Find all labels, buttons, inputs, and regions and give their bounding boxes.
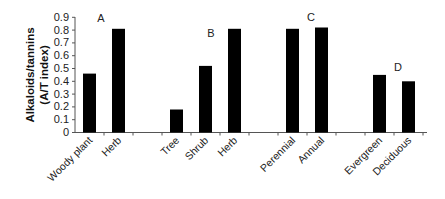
group-letter-a: A (97, 12, 105, 24)
bars (83, 28, 415, 133)
y-tick-label: 0.1 (54, 113, 69, 125)
bar-tree (170, 110, 183, 133)
x-tick-label-shrub: Shrub (182, 134, 210, 162)
group-letter-d: D (394, 61, 402, 73)
y-tick-label: 0.7 (54, 36, 69, 48)
bar-herb (228, 29, 241, 133)
y-axis-label: Alkaloids/tannins (A/T index) (24, 27, 50, 122)
y-axis-label-line-1: Alkaloids/tannins (24, 27, 36, 122)
bar-woody-plant (83, 74, 96, 133)
x-tick-label-perennial: Perennial (258, 134, 298, 174)
y-tick-label: 0.4 (54, 75, 69, 87)
bar-annual (315, 28, 328, 133)
y-tick-label: 0.6 (54, 49, 69, 61)
group-letters: A B C D (97, 11, 402, 73)
group-letter-b: B (207, 27, 214, 39)
bar-herb (112, 29, 125, 133)
y-axis-label-line-2: (A/T index) (38, 45, 50, 105)
bar-deciduous (402, 81, 415, 132)
bar-evergreen (373, 75, 386, 133)
group-letter-c: C (307, 11, 315, 23)
x-tick-label-herb: Herb (99, 134, 124, 159)
bar-perennial (286, 29, 299, 133)
y-tick-label: 0.9 (54, 11, 69, 23)
y-tick-label: 0.8 (54, 24, 69, 36)
y-tick-label: 0.5 (54, 62, 69, 74)
x-tick-label-tree: Tree (158, 134, 182, 158)
x-tick-label-herb-2: Herb (215, 134, 240, 159)
y-tick-label: 0.2 (54, 100, 69, 112)
y-tick-label: 0.3 (54, 88, 69, 100)
x-tick-label-annual: Annual (295, 134, 327, 166)
bar-shrub (199, 66, 212, 133)
bar-chart: Alkaloids/tannins (A/T index) 0 0.1 0.2 … (0, 0, 445, 199)
y-tick-labels: 0 0.1 0.2 0.3 0.4 0.5 0.6 0.7 0.8 0.9 (54, 11, 69, 138)
x-tick-labels: Woody plant Herb Tree Shrub Herb Perenni… (45, 134, 414, 184)
y-tick-label: 0 (63, 126, 69, 138)
x-tick-label-woody-plant: Woody plant (45, 134, 95, 184)
